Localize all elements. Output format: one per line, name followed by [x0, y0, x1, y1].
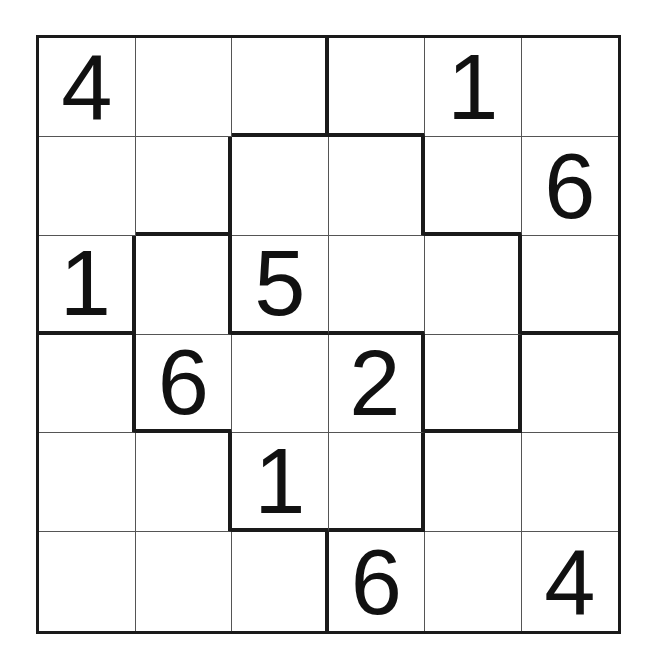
cell-r4-c2[interactable]: 1 [232, 433, 329, 532]
cell-r0-c3[interactable] [329, 38, 426, 137]
cell-r4-c1[interactable] [136, 433, 233, 532]
cell-r1-c2[interactable] [232, 137, 329, 236]
cell-r5-c1[interactable] [136, 532, 233, 631]
cell-r4-c0[interactable] [39, 433, 136, 532]
cell-r4-c3[interactable] [329, 433, 426, 532]
cell-r2-c1[interactable] [136, 236, 233, 335]
cell-r2-c3[interactable] [329, 236, 426, 335]
cell-r0-c0[interactable]: 4 [39, 38, 136, 137]
cell-r3-c5[interactable] [522, 335, 619, 434]
cell-r3-c3[interactable]: 2 [329, 335, 426, 434]
cell-r3-c0[interactable] [39, 335, 136, 434]
cell-r2-c5[interactable] [522, 236, 619, 335]
cell-r4-c5[interactable] [522, 433, 619, 532]
cell-r1-c5[interactable]: 6 [522, 137, 619, 236]
cell-r5-c4[interactable] [425, 532, 522, 631]
cell-r0-c2[interactable] [232, 38, 329, 137]
sudoku-board: 4161562164 [36, 35, 621, 634]
cell-r3-c1[interactable]: 6 [136, 335, 233, 434]
cell-r2-c4[interactable] [425, 236, 522, 335]
cell-r3-c2[interactable] [232, 335, 329, 434]
cell-r1-c4[interactable] [425, 137, 522, 236]
cell-r2-c0[interactable]: 1 [39, 236, 136, 335]
cell-r4-c4[interactable] [425, 433, 522, 532]
cell-r0-c5[interactable] [522, 38, 619, 137]
cell-r0-c4[interactable]: 1 [425, 38, 522, 137]
cell-r1-c1[interactable] [136, 137, 233, 236]
cell-r5-c0[interactable] [39, 532, 136, 631]
cell-r2-c2[interactable]: 5 [232, 236, 329, 335]
cell-r3-c4[interactable] [425, 335, 522, 434]
cell-r0-c1[interactable] [136, 38, 233, 137]
cell-r1-c3[interactable] [329, 137, 426, 236]
cell-r5-c2[interactable] [232, 532, 329, 631]
cell-r5-c5[interactable]: 4 [522, 532, 619, 631]
cell-r1-c0[interactable] [39, 137, 136, 236]
cell-r5-c3[interactable]: 6 [329, 532, 426, 631]
